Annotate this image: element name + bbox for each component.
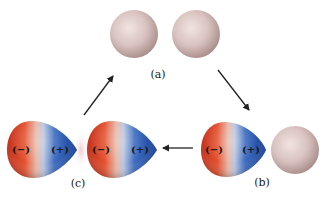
stage-b: (−) (+) (b) <box>201 122 319 189</box>
dipole-b: (−) (+) <box>201 122 266 177</box>
neutral-atom-b <box>271 126 319 174</box>
stage-c-label: (c) <box>71 177 86 190</box>
stage-b-label: (b) <box>254 176 270 189</box>
arrow-a-to-b <box>218 70 249 110</box>
negative-sign: (−) <box>12 144 30 155</box>
stage-a-label: (a) <box>150 68 165 81</box>
negative-sign: (−) <box>205 144 223 155</box>
dipole-c-left: (−) (+) <box>7 121 77 178</box>
positive-sign: (+) <box>51 144 69 155</box>
arrow-c-to-a <box>84 76 113 115</box>
positive-sign: (+) <box>131 144 149 155</box>
negative-sign: (−) <box>92 144 110 155</box>
positive-sign: (+) <box>242 144 260 155</box>
neutral-atom-a-right <box>172 10 220 58</box>
neutral-atom-a-left <box>110 10 158 58</box>
dipole-c-right: (−) (+) <box>87 121 157 178</box>
stage-c: (−) (+) (−) (+) (c) <box>7 121 157 190</box>
stage-a: (a) <box>110 10 220 81</box>
diagram-canvas: (a) (−) (+) (−) (+) (c) (−) (+) ( <box>0 0 328 197</box>
